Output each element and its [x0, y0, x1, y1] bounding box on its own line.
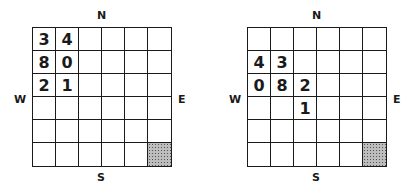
- grid-cell: [340, 120, 363, 143]
- left-grid-panel: N S W E 348021: [0, 0, 207, 194]
- grid-cell: [317, 74, 340, 97]
- grid-cell: [125, 97, 148, 120]
- grid-cell: [125, 120, 148, 143]
- grid-cell: [79, 97, 102, 120]
- grid-cell: [33, 143, 56, 166]
- grid-cell: 3: [271, 51, 294, 74]
- grid-cell: [79, 51, 102, 74]
- shaded-cell: [148, 143, 171, 166]
- grid-cell: [33, 97, 56, 120]
- grid-cell: [79, 74, 102, 97]
- shaded-cell: [363, 143, 386, 166]
- right-grid-panel: N S W E 430821: [207, 0, 414, 194]
- grid-cell: [248, 120, 271, 143]
- grid-cell: [363, 28, 386, 51]
- grid-cell: [102, 120, 125, 143]
- grid-cell: 8: [33, 51, 56, 74]
- grid-cell: [340, 143, 363, 166]
- grid-cell: [340, 74, 363, 97]
- grid-cell: [340, 28, 363, 51]
- east-label: E: [178, 93, 186, 106]
- grid-cell: [102, 28, 125, 51]
- grid-cell: [102, 143, 125, 166]
- grid-cell: [56, 143, 79, 166]
- grid-cell: [317, 143, 340, 166]
- grid-cell: [317, 51, 340, 74]
- west-label: W: [14, 93, 26, 106]
- grid-cell: [317, 97, 340, 120]
- number-grid: 348021: [32, 27, 172, 167]
- grid-cell: [294, 51, 317, 74]
- grid-cell: [56, 120, 79, 143]
- grid-cell: [56, 97, 79, 120]
- grid-cell: [148, 97, 171, 120]
- number-grid: 430821: [247, 27, 387, 167]
- grid-cell: [294, 28, 317, 51]
- grid-cell: 1: [294, 97, 317, 120]
- grid-cell: [79, 28, 102, 51]
- grid-cell: [125, 51, 148, 74]
- grid-cell: 8: [271, 74, 294, 97]
- grid-cell: [363, 51, 386, 74]
- grid-cell: [271, 143, 294, 166]
- grid-cell: [148, 51, 171, 74]
- grid-cell: [317, 28, 340, 51]
- grid-cell: [271, 120, 294, 143]
- grid-cell: 2: [294, 74, 317, 97]
- grid-cell: 3: [33, 28, 56, 51]
- grid-cell: 4: [56, 28, 79, 51]
- grid-cell: [148, 120, 171, 143]
- south-label: S: [97, 171, 105, 184]
- west-label: W: [229, 93, 241, 106]
- grid-cell: [248, 143, 271, 166]
- grid-cell: 0: [248, 74, 271, 97]
- grid-cell: [125, 143, 148, 166]
- grid-cell: [102, 51, 125, 74]
- grid-cell: [248, 28, 271, 51]
- grid-cell: [363, 97, 386, 120]
- grid-cell: [102, 74, 125, 97]
- grid-cell: [294, 120, 317, 143]
- grid-cell: [248, 97, 271, 120]
- north-label: N: [97, 9, 106, 22]
- grid-cell: 1: [56, 74, 79, 97]
- grid-cell: [363, 74, 386, 97]
- grid-cell: [79, 120, 102, 143]
- grid-cell: 0: [56, 51, 79, 74]
- grid-cell: [102, 97, 125, 120]
- grid-cell: [148, 74, 171, 97]
- grid-cell: [125, 28, 148, 51]
- east-label: E: [393, 93, 401, 106]
- grid-cell: 4: [248, 51, 271, 74]
- grid-cell: [148, 28, 171, 51]
- grid-cell: [340, 97, 363, 120]
- grid-cell: [363, 120, 386, 143]
- grid-cell: 2: [33, 74, 56, 97]
- grid-cell: [340, 51, 363, 74]
- grid-cell: [33, 120, 56, 143]
- grid-cell: [79, 143, 102, 166]
- grid-cell: [271, 28, 294, 51]
- grid-cell: [271, 97, 294, 120]
- north-label: N: [312, 9, 321, 22]
- grid-cell: [294, 143, 317, 166]
- grid-cell: [317, 120, 340, 143]
- south-label: S: [312, 171, 320, 184]
- grid-cell: [125, 74, 148, 97]
